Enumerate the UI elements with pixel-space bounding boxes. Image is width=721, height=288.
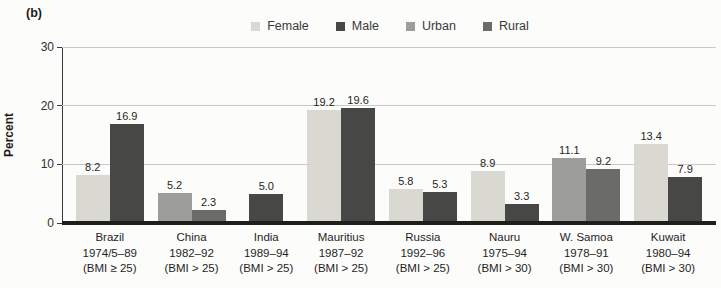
- bars-row: 5.85.3: [389, 47, 457, 223]
- bar-value-label: 13.4: [640, 130, 661, 142]
- y-tick-label-10: 10: [41, 157, 54, 171]
- bar-value-label: 5.2: [167, 179, 182, 191]
- bar-value-label: 5.3: [432, 178, 447, 190]
- bars-row: 13.47.9: [634, 47, 702, 223]
- bar-group: 13.47.9Kuwait1980–94(BMI > 30): [634, 47, 702, 277]
- bar-value-label: 5.8: [398, 175, 413, 187]
- bars-row: 5.0: [249, 47, 283, 223]
- figure-panel-b: (b) FemaleMaleUrbanRural Percent 0102030…: [0, 0, 721, 288]
- bar-urban: 5.2: [158, 193, 192, 224]
- legend-item-rural: Rural: [483, 19, 529, 33]
- bars-row: 19.219.6: [307, 47, 375, 223]
- bar-urban: 11.1: [552, 158, 586, 223]
- bar-group: 8.93.3Nauru1975–94(BMI > 30): [471, 47, 539, 277]
- bar-male: 16.9: [110, 124, 144, 223]
- bar-value-label: 16.9: [116, 110, 137, 122]
- bars-row: 11.19.2: [552, 47, 620, 223]
- bars-row: 8.216.9: [76, 47, 144, 223]
- legend-swatch-male-icon: [336, 22, 345, 31]
- y-tick-label-30: 30: [41, 40, 54, 54]
- bar-female: 8.2: [76, 175, 110, 223]
- bar-group: 8.216.9Brazil1974/5–89(BMI ≥ 25): [76, 47, 144, 277]
- legend-item-male: Male: [336, 19, 379, 33]
- bar-group: 5.0India1989–94(BMI > 25): [239, 47, 293, 277]
- bar-female: 5.8: [389, 189, 423, 223]
- y-tick-label-0: 0: [47, 216, 54, 230]
- legend-label: Male: [352, 19, 379, 33]
- legend-swatch-rural-icon: [483, 22, 492, 31]
- bar-value-label: 3.3: [514, 190, 529, 202]
- bar-male: 5.3: [423, 192, 457, 223]
- bar-group: 5.85.3Russia1992–96(BMI > 25): [389, 47, 457, 277]
- bar-value-label: 9.2: [596, 155, 611, 167]
- bar-male: 5.0: [249, 194, 283, 223]
- x-axis-baseline: [62, 221, 716, 225]
- legend: FemaleMaleUrbanRural: [62, 19, 718, 33]
- y-axis-title: Percent: [2, 100, 16, 170]
- bar-female: 8.9: [471, 171, 505, 223]
- x-axis-group-label: Russia1992–96(BMI > 25): [396, 230, 450, 277]
- bar-rural: 9.2: [586, 169, 620, 223]
- legend-label: Rural: [499, 19, 529, 33]
- legend-label: Urban: [422, 19, 456, 33]
- bar-value-label: 11.1: [559, 144, 580, 156]
- legend-label: Female: [267, 19, 309, 33]
- bar-value-label: 19.2: [313, 96, 334, 108]
- bar-value-label: 19.6: [347, 94, 368, 106]
- x-axis-group-label: China1982–92(BMI > 25): [165, 230, 219, 277]
- bar-male: 7.9: [668, 177, 702, 223]
- bar-female: 13.4: [634, 144, 668, 223]
- x-axis-group-label: Nauru1975–94(BMI > 30): [478, 230, 532, 277]
- bar-value-label: 2.3: [201, 196, 216, 208]
- bar-value-label: 7.9: [677, 163, 692, 175]
- legend-item-urban: Urban: [406, 19, 456, 33]
- bars-row: 8.93.3: [471, 47, 539, 223]
- x-axis-group-label: W. Samoa1978–91(BMI > 30): [559, 230, 613, 277]
- bar-value-label: 5.0: [259, 180, 274, 192]
- legend-swatch-female-icon: [251, 22, 260, 31]
- bars-row: 5.22.3: [158, 47, 226, 223]
- bar-value-label: 8.2: [85, 161, 100, 173]
- x-axis-group-label: Brazil1974/5–89(BMI ≥ 25): [83, 230, 137, 277]
- x-axis-group-label: Kuwait1980–94(BMI > 30): [641, 230, 695, 277]
- bar-group: 11.19.2W. Samoa1978–91(BMI > 30): [552, 47, 620, 277]
- legend-swatch-urban-icon: [406, 22, 415, 31]
- bar-group: 19.219.6Mauritius1987–92(BMI > 25): [307, 47, 375, 277]
- legend-item-female: Female: [251, 19, 309, 33]
- bar-group: 5.22.3China1982–92(BMI > 25): [158, 47, 226, 277]
- y-tick-label-20: 20: [41, 99, 54, 113]
- bar-value-label: 8.9: [480, 157, 495, 169]
- panel-label: (b): [26, 6, 42, 20]
- bar-groups: 8.216.9Brazil1974/5–89(BMI ≥ 25)5.22.3Ch…: [62, 47, 716, 277]
- bar-female: 19.2: [307, 110, 341, 223]
- bar-male: 19.6: [341, 108, 375, 223]
- x-axis-group-label: India1989–94(BMI > 25): [239, 230, 293, 277]
- x-axis-group-label: Mauritius1987–92(BMI > 25): [314, 230, 368, 277]
